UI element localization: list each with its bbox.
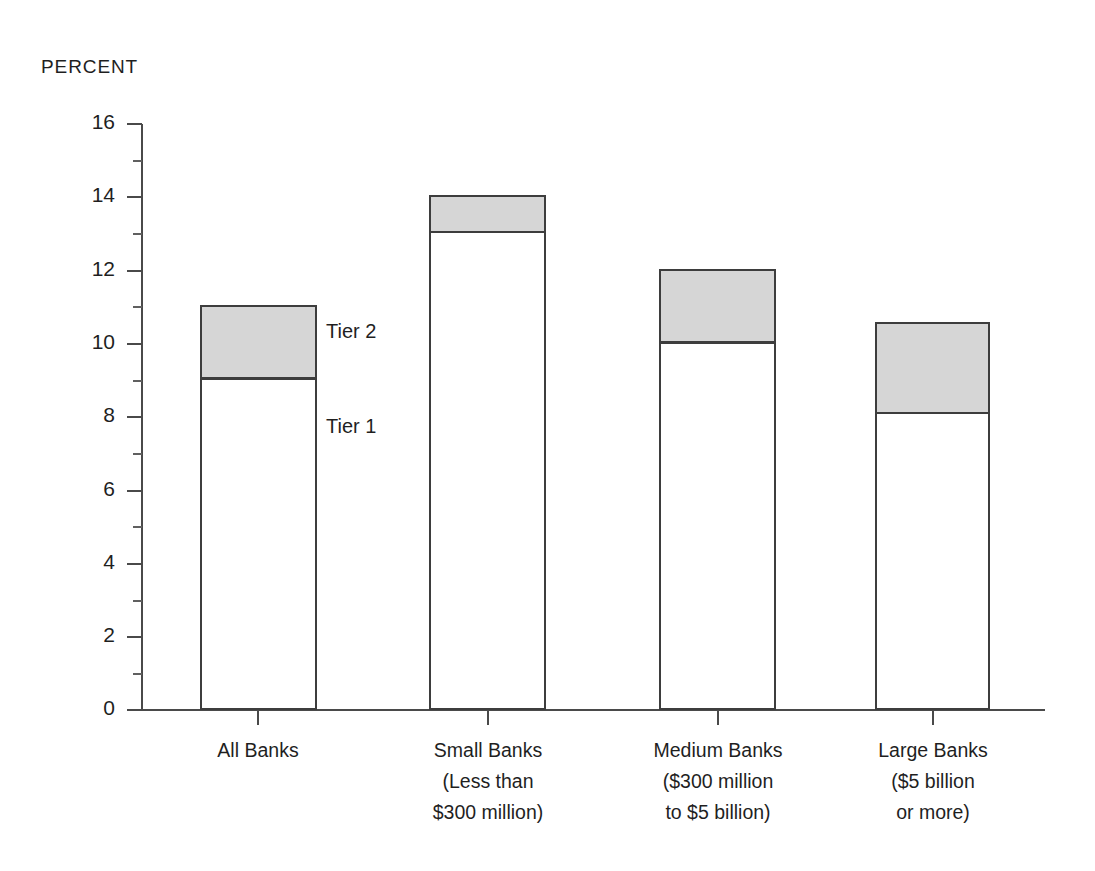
category-label-line3: or more) — [803, 797, 1063, 828]
category-label-all-banks: All Banks — [128, 735, 388, 766]
y-tick-0 — [127, 709, 142, 711]
y-tick-label-4: 4 — [45, 550, 115, 574]
bar-segment-tier1[interactable] — [429, 231, 546, 710]
y-tick-label-0: 0 — [45, 696, 115, 720]
y-tick-minor-9 — [133, 380, 142, 382]
bar-segment-tier2[interactable] — [659, 269, 776, 343]
category-label-line1: All Banks — [128, 735, 388, 766]
x-tick-small-banks — [487, 711, 489, 725]
y-tick-minor-13 — [133, 233, 142, 235]
category-label-large-banks: Large Banks ($5 billion or more) — [803, 735, 1063, 828]
x-tick-all-banks — [257, 711, 259, 725]
bar-small-banks[interactable] — [429, 195, 546, 710]
y-tick-minor-5 — [133, 526, 142, 528]
chart-container: PERCENT 16 14 12 10 8 6 4 2 0 — [0, 0, 1095, 871]
bar-segment-tier1[interactable] — [659, 342, 776, 710]
bar-segment-tier2[interactable] — [200, 305, 317, 379]
x-tick-medium-banks — [717, 711, 719, 725]
bar-medium-banks[interactable] — [659, 269, 776, 710]
x-tick-large-banks — [932, 711, 934, 725]
y-tick-label-2: 2 — [45, 623, 115, 647]
y-tick-label-6: 6 — [45, 477, 115, 501]
bar-segment-tier1[interactable] — [875, 412, 990, 710]
category-label-small-banks: Small Banks (Less than $300 million) — [358, 735, 618, 828]
y-tick-8 — [127, 416, 142, 418]
plot-area: 16 14 12 10 8 6 4 2 0 — [0, 0, 1095, 871]
y-tick-14 — [127, 196, 142, 198]
series-label-tier1: Tier 1 — [326, 415, 376, 438]
y-tick-16 — [127, 123, 142, 125]
y-tick-4 — [127, 563, 142, 565]
bar-segment-tier1[interactable] — [200, 378, 317, 710]
y-tick-minor-7 — [133, 453, 142, 455]
category-label-line1: Large Banks — [803, 735, 1063, 766]
y-tick-12 — [127, 270, 142, 272]
bar-large-banks[interactable] — [875, 322, 990, 710]
y-tick-label-8: 8 — [45, 403, 115, 427]
y-tick-minor-11 — [133, 306, 142, 308]
y-tick-2 — [127, 636, 142, 638]
category-label-line2: (Less than — [358, 766, 618, 797]
series-label-tier2: Tier 2 — [326, 320, 376, 343]
y-tick-10 — [127, 343, 142, 345]
y-tick-label-10: 10 — [45, 330, 115, 354]
bar-segment-tier2[interactable] — [429, 195, 546, 233]
y-tick-label-16: 16 — [45, 110, 115, 134]
y-tick-minor-15 — [133, 160, 142, 162]
bar-segment-tier2[interactable] — [875, 322, 990, 414]
category-label-line3: $300 million) — [358, 797, 618, 828]
bar-all-banks[interactable] — [200, 305, 317, 710]
category-label-line2: ($5 billion — [803, 766, 1063, 797]
y-tick-label-14: 14 — [45, 183, 115, 207]
y-tick-minor-3 — [133, 600, 142, 602]
y-tick-label-12: 12 — [45, 257, 115, 281]
y-tick-minor-1 — [133, 673, 142, 675]
category-label-line1: Small Banks — [358, 735, 618, 766]
y-tick-6 — [127, 490, 142, 492]
